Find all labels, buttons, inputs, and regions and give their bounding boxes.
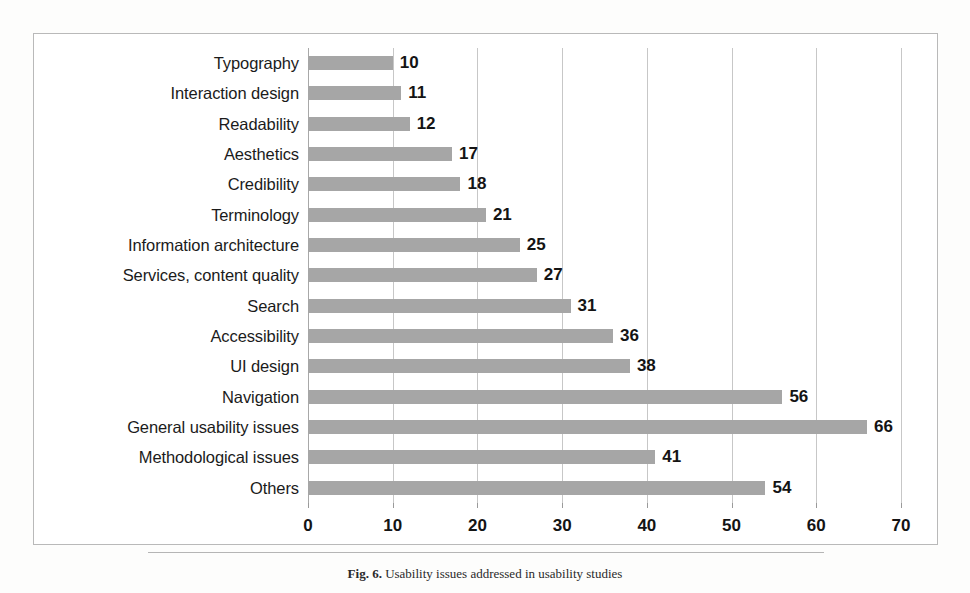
bar-row: Methodological issues41 xyxy=(308,442,901,472)
tick-mark-40 xyxy=(647,503,648,508)
bar-value-label: 38 xyxy=(637,356,656,376)
category-label: Accessibility xyxy=(210,327,299,346)
bar-value-label: 31 xyxy=(578,296,597,316)
bar-value-label: 56 xyxy=(789,387,808,407)
bar xyxy=(308,238,520,252)
bar xyxy=(308,268,537,282)
bar xyxy=(308,359,630,373)
category-label: Others xyxy=(250,478,299,497)
bar-value-label: 12 xyxy=(417,114,436,134)
category-label: UI design xyxy=(230,357,299,376)
category-label: Navigation xyxy=(222,387,299,406)
gridline-70 xyxy=(901,48,902,503)
x-tick-label-30: 30 xyxy=(553,516,572,536)
bar-row: Terminology21 xyxy=(308,200,901,230)
bar xyxy=(308,208,486,222)
bar xyxy=(308,420,867,434)
bar xyxy=(308,481,765,495)
tick-mark-30 xyxy=(562,503,563,508)
category-label: Readability xyxy=(218,114,299,133)
figure-caption: Fig. 6. Usability issues addressed in us… xyxy=(0,566,970,582)
x-tick-label-40: 40 xyxy=(637,516,656,536)
bar-value-label: 17 xyxy=(459,144,478,164)
bar-row: General usability issues66 xyxy=(308,412,901,442)
category-label: Services, content quality xyxy=(123,266,299,285)
tick-mark-10 xyxy=(393,503,394,508)
tick-mark-20 xyxy=(477,503,478,508)
bar xyxy=(308,329,613,343)
bar xyxy=(308,390,782,404)
category-label: Terminology xyxy=(211,205,299,224)
bar-value-label: 10 xyxy=(400,53,419,73)
x-tick-label-10: 10 xyxy=(383,516,402,536)
bar-row: Navigation56 xyxy=(308,382,901,412)
plot-area: Typography10Interaction design11Readabil… xyxy=(308,48,901,503)
category-label: Aesthetics xyxy=(224,145,299,164)
bar-row: Services, content quality27 xyxy=(308,260,901,290)
figure-number: Fig. 6. xyxy=(348,566,382,581)
tick-mark-60 xyxy=(816,503,817,508)
bar-row: Interaction design11 xyxy=(308,78,901,108)
bar-row: Others54 xyxy=(308,473,901,503)
category-label: Credibility xyxy=(228,175,299,194)
bar-value-label: 41 xyxy=(662,447,681,467)
category-label: Search xyxy=(247,296,299,315)
category-label: Methodological issues xyxy=(139,448,299,467)
bar-row: Information architecture25 xyxy=(308,230,901,260)
bar xyxy=(308,117,410,131)
x-tick-label-0: 0 xyxy=(303,516,312,536)
bar-row: Aesthetics17 xyxy=(308,139,901,169)
bar-row: Typography10 xyxy=(308,48,901,78)
tick-mark-70 xyxy=(901,503,902,508)
x-tick-label-50: 50 xyxy=(722,516,741,536)
bar-row: Readability12 xyxy=(308,109,901,139)
category-label: General usability issues xyxy=(127,418,299,437)
bar xyxy=(308,299,571,313)
bar xyxy=(308,86,401,100)
bar-value-label: 66 xyxy=(874,417,893,437)
bar-row: UI design38 xyxy=(308,351,901,381)
category-label: Typography xyxy=(214,54,299,73)
bar-row: Accessibility36 xyxy=(308,321,901,351)
category-label: Information architecture xyxy=(128,236,299,255)
chart-frame: Typography10Interaction design11Readabil… xyxy=(33,33,938,545)
x-tick-label-20: 20 xyxy=(468,516,487,536)
x-tick-label-60: 60 xyxy=(807,516,826,536)
bar xyxy=(308,56,393,70)
bar-value-label: 11 xyxy=(408,83,426,103)
bar xyxy=(308,147,452,161)
category-label: Interaction design xyxy=(171,84,299,103)
caption-rule xyxy=(148,552,824,553)
bar-value-label: 18 xyxy=(467,174,486,194)
page-background: Typography10Interaction design11Readabil… xyxy=(0,0,970,593)
bar xyxy=(308,177,460,191)
tick-mark-50 xyxy=(732,503,733,508)
x-axis-tick-labels: 010203040506070 xyxy=(308,516,901,542)
bar xyxy=(308,450,655,464)
bar-row: Search31 xyxy=(308,291,901,321)
figure-caption-text: Usability issues addressed in usability … xyxy=(385,566,622,581)
tick-mark-0 xyxy=(308,503,309,508)
bar-value-label: 21 xyxy=(493,205,512,225)
bar-value-label: 25 xyxy=(527,235,546,255)
x-tick-label-70: 70 xyxy=(892,516,911,536)
bar-value-label: 54 xyxy=(772,478,791,498)
bar-row: Credibility18 xyxy=(308,169,901,199)
bar-value-label: 27 xyxy=(544,265,563,285)
bar-value-label: 36 xyxy=(620,326,639,346)
